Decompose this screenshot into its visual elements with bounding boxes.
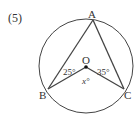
problem-number: (5) <box>8 11 22 25</box>
label-C: C <box>124 89 131 101</box>
label-O: O <box>82 54 90 66</box>
segment-AC <box>93 20 124 89</box>
angle-label-35: 35° <box>97 67 110 77</box>
angle-label-25: 25° <box>63 67 76 77</box>
label-A: A <box>88 8 96 20</box>
label-B: B <box>39 89 46 101</box>
geometry-diagram: (5) A B C O 25° 35° x° <box>0 0 139 117</box>
angle-label-x: x° <box>81 76 90 86</box>
